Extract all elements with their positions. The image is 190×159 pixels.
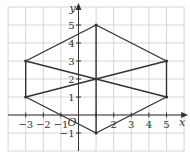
y-axis-arrow-icon	[76, 3, 82, 10]
vertex-point	[95, 77, 98, 80]
x-tick-label: 3	[128, 119, 134, 130]
x-tick-label: 4	[146, 119, 152, 130]
origin-label: O	[68, 116, 77, 129]
y-tick-label: 1	[68, 92, 74, 103]
y-tick-label: 3	[68, 56, 74, 67]
vertex-point	[165, 95, 168, 98]
x-tick-label: 2	[111, 119, 117, 130]
coordinate-plane: −3−2−12345−112345Oxy	[0, 0, 190, 159]
x-tick-label: 5	[163, 119, 169, 130]
vertex-point	[24, 95, 27, 98]
y-axis-label: y	[69, 2, 77, 15]
vertex-point	[24, 59, 27, 62]
vertex-point	[95, 131, 98, 134]
vertex-point	[165, 59, 168, 62]
y-tick-label: 2	[68, 74, 74, 85]
y-tick-label: 5	[68, 20, 74, 31]
y-tick-label: 4	[68, 38, 74, 49]
x-axis-label: x	[179, 116, 186, 129]
x-tick-label: −2	[36, 119, 51, 130]
y-tick-label: −1	[60, 128, 75, 139]
x-tick-label: −3	[18, 119, 33, 130]
vertex-point	[95, 23, 98, 26]
